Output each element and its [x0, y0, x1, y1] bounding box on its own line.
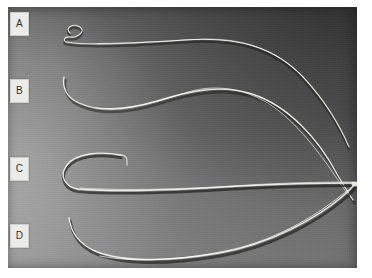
panel-label-d-text: D — [16, 231, 23, 241]
panel-label-c-text: C — [16, 164, 23, 174]
catheter-b-body — [64, 77, 353, 200]
panel-label-b: B — [10, 79, 29, 103]
panel-label-a: A — [10, 12, 29, 36]
catheter-curve-d — [69, 185, 355, 263]
catheter-b-gloss — [96, 88, 348, 195]
catheter-d-shadow — [70, 188, 355, 263]
catheter-curves-layer — [8, 7, 357, 268]
catheter-c-hook-tip — [121, 155, 127, 165]
catheter-curve-b — [64, 77, 355, 203]
catheter-b-shadow — [65, 80, 354, 203]
photograph-plate: A B C D — [8, 7, 357, 268]
catheter-c-body — [63, 153, 354, 190]
figure-root: A B C D — [0, 0, 372, 278]
panel-label-c: C — [10, 157, 29, 181]
catheter-curve-c — [63, 153, 354, 193]
panel-label-a-text: A — [16, 19, 23, 29]
panel-label-b-text: B — [16, 86, 23, 96]
panel-label-d: D — [10, 224, 29, 248]
catheter-d-gloss — [100, 190, 348, 260]
